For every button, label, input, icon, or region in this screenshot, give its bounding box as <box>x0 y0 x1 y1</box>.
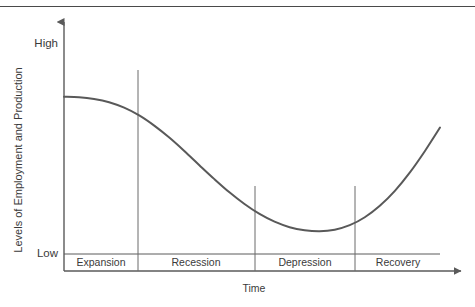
y-tick-label-low: Low <box>37 247 59 259</box>
phase-label-recovery: Recovery <box>376 256 421 268</box>
phase-label-expansion: Expansion <box>76 256 125 268</box>
y-tick-label-high: High <box>34 37 58 49</box>
x-axis-title: Time <box>243 282 266 294</box>
business-cycle-curve <box>64 97 440 231</box>
phase-label-depression: Depression <box>278 256 331 268</box>
phase-label-recession: Recession <box>171 256 220 268</box>
business-cycle-chart: High Low Levels of Employment and Produc… <box>0 0 475 307</box>
top-divider-rule <box>0 6 475 7</box>
y-axis-title: Levels of Employment and Production <box>12 67 24 252</box>
business-cycle-figure: High Low Levels of Employment and Produc… <box>0 0 475 307</box>
